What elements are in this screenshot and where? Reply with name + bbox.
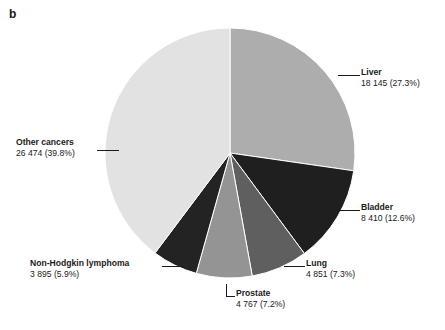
slice-label-non-hodgkin-lymphoma-value: 3 895 (5.9%) — [30, 269, 129, 280]
slice-label-bladder-category: Bladder — [361, 202, 415, 213]
slice-label-liver-value: 18 145 (27.3%) — [361, 78, 420, 89]
slice-label-prostate-value: 4 767 (7.2%) — [236, 299, 285, 310]
slice-label-other-cancers: Other cancers 26 474 (39.8%) — [16, 137, 75, 160]
slice-label-liver: Liver 18 145 (27.3%) — [361, 67, 420, 90]
slice-label-prostate: Prostate 4 767 (7.2%) — [236, 288, 285, 311]
slice-label-bladder: Bladder 8 410 (12.6%) — [361, 202, 415, 225]
slice-label-prostate-category: Prostate — [236, 288, 285, 299]
leader-line-nhl — [162, 266, 184, 267]
slice-label-liver-category: Liver — [361, 67, 420, 78]
leader-line-other — [97, 150, 119, 151]
slice-label-non-hodgkin-lymphoma-category: Non-Hodgkin lymphoma — [30, 258, 129, 269]
slice-label-bladder-value: 8 410 (12.6%) — [361, 213, 415, 224]
slice-label-non-hodgkin-lymphoma: Non-Hodgkin lymphoma 3 895 (5.9%) — [30, 258, 129, 281]
leader-line-prostate-horizontal — [226, 296, 235, 297]
slice-label-lung: Lung 4 851 (7.3%) — [306, 258, 355, 281]
slice-label-other-cancers-value: 26 474 (39.8%) — [16, 148, 75, 159]
leader-line-liver — [338, 75, 360, 76]
slice-label-lung-category: Lung — [306, 258, 355, 269]
pie-slice-liver[interactable] — [230, 28, 355, 171]
pie-slices-group — [105, 28, 355, 278]
leader-line-lung — [284, 266, 305, 267]
leader-line-bladder — [338, 210, 360, 211]
slice-label-other-cancers-category: Other cancers — [16, 137, 75, 148]
pie-chart-figure: b Liver 18 145 (27.3%) Bladder 8 410 (12… — [0, 0, 445, 330]
slice-label-lung-value: 4 851 (7.3%) — [306, 269, 355, 280]
